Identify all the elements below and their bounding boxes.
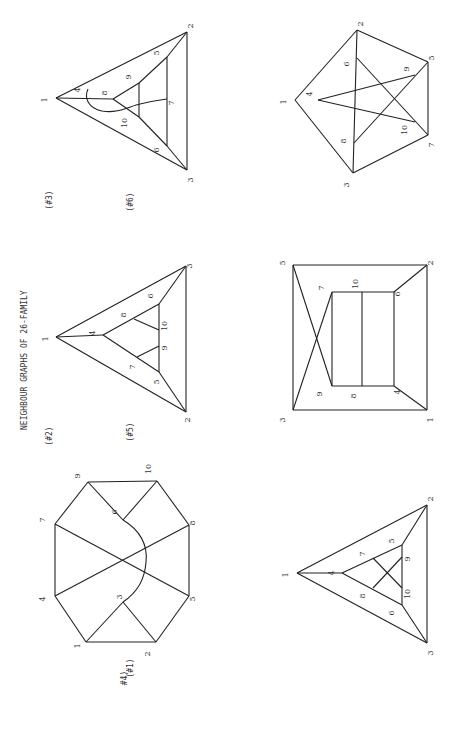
edge-6-10 [123,481,157,520]
edge-10-8 [157,481,189,525]
graph-5: 12345678910(#5) [126,260,435,441]
graph-caption: (#5) [126,422,135,441]
neighbour-graphs-figure: NEIGHBOUR GRAPHS OF 26-FAMILY 1234567891… [0,0,456,737]
edge-7-9 [137,346,159,357]
node-label-7: 7 [358,551,367,556]
node-label-9: 9 [160,345,169,350]
graph-caption: #4) [120,671,129,685]
node-label-8: 8 [119,312,128,317]
node-label-7: 7 [38,517,47,522]
node-label-8: 8 [349,393,358,398]
node-label-4: 4 [327,570,336,575]
node-label-5: 5 [387,538,396,543]
node-label-10: 10 [400,125,409,135]
node-label-10: 10 [144,464,153,474]
node-label-8: 8 [100,90,109,95]
node-label-9: 9 [403,556,412,561]
node-label-8: 8 [358,593,367,598]
node-label-10: 10 [351,279,360,289]
node-label-9: 9 [402,66,411,71]
node-label-3: 3 [342,182,351,187]
node-label-9: 9 [315,391,324,396]
edge-4-6 [342,573,402,605]
node-label-4: 4 [73,87,82,92]
node-label-9: 9 [73,473,82,478]
node-label-6: 6 [110,509,119,514]
edge-8-5 [354,62,428,143]
graph-caption: (#3) [45,190,54,209]
edge-10-6 [139,117,167,146]
node-label-1: 1 [40,97,49,102]
node-label-3: 3 [278,417,287,422]
page-title: NEIGHBOUR GRAPHS OF 26-FAMILY [20,290,29,430]
edge-2-5 [357,30,428,62]
edge-3-7 [293,292,332,410]
graph-1: 12345678910(#1) [38,464,197,678]
node-label-10: 10 [120,118,129,128]
node-label-5: 5 [427,55,436,60]
node-label-2: 2 [426,496,435,501]
curved-edge-4-7 [87,89,167,112]
graphs-layer: 12345678910(#1)12345678910(#2)1234567891… [38,21,436,685]
node-label-4: 4 [305,91,314,96]
node-label-5: 5 [152,379,161,384]
edge-6-3 [159,266,186,304]
edge-2-5 [156,596,189,642]
node-label-7: 7 [317,285,326,290]
edge-7-9 [55,482,88,524]
edge-5-2 [167,32,187,57]
edge-1-3 [295,100,353,173]
edge-3-7 [353,135,428,173]
edge-1-8 [56,98,113,99]
node-label-2: 2 [186,23,195,28]
edge-2-3 [353,30,357,173]
node-label-1: 1 [73,643,82,648]
node-label-5: 5 [152,50,161,55]
edge-1-2 [297,505,427,573]
node-label-2: 2 [356,21,365,26]
edge-4-9 [318,75,415,100]
edge-8-9 [113,83,139,99]
graph-3: 12345678910(#3) [40,23,195,209]
edge-2-3 [123,602,156,642]
edge-5-9 [293,265,332,386]
node-label-7: 7 [167,100,176,105]
edge-9-5 [139,57,167,83]
edge-6-2 [394,265,427,292]
node-label-1: 1 [41,336,50,341]
edge-6-3 [402,605,427,643]
node-label-8: 8 [339,138,348,143]
node-label-4: 4 [393,389,402,394]
edge-4-6 [103,304,159,335]
node-label-6: 6 [342,61,351,66]
edge-6-3 [167,146,187,170]
node-label-2: 2 [143,651,152,656]
edge-9-10 [88,481,157,482]
curved-edge-6-3 [123,520,146,602]
node-label-5: 5 [188,596,197,601]
graph-caption: (#2) [45,426,54,445]
edge-6-7 [357,58,428,135]
node-label-3: 3 [185,263,194,268]
graph-2: 12345678910(#2) [41,263,194,445]
node-label-1: 1 [426,417,435,422]
node-label-7: 7 [427,142,436,147]
node-label-8: 8 [188,520,197,525]
node-label-10: 10 [403,589,412,599]
node-label-1: 1 [279,99,288,104]
edge-5-2 [159,372,186,412]
node-label-4: 4 [38,596,47,601]
node-label-9: 9 [124,74,133,79]
node-label-7: 7 [128,364,137,369]
node-label-1: 1 [281,572,290,577]
node-label-3: 3 [186,177,195,182]
graph-4: 12345678910#4) [120,496,435,685]
edge-1-3 [86,602,123,642]
node-label-4: 4 [88,330,97,335]
edge-1-4 [55,596,86,642]
node-label-5: 5 [278,260,287,265]
edge-8-10 [134,319,159,330]
node-label-10: 10 [160,321,169,331]
node-label-6: 6 [146,293,155,298]
node-label-2: 2 [426,260,435,265]
